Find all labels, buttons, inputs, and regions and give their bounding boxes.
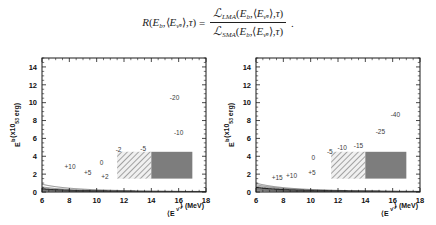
y-tick-label: 6	[247, 134, 251, 143]
equation-denominator: ℒSMA(Eb,⟨Eν̄e⟩,τ)	[210, 23, 286, 39]
y-tick-label: 6	[33, 134, 37, 143]
y-tick-label: 14	[29, 63, 38, 72]
contour-label: +5	[84, 169, 92, 176]
y-tick-label: 4	[33, 152, 38, 161]
shaded-region-group	[117, 152, 192, 179]
contour-label: +10	[286, 172, 297, 179]
numerator-paren-close: )	[280, 7, 284, 19]
x-tick-label: 14	[147, 196, 156, 205]
y-tick-label: 8	[33, 116, 37, 125]
equation-paren-close: )	[193, 16, 197, 28]
right-panel: +15+10+50-5-10-15-25-4068101214161802468…	[222, 50, 428, 222]
y-tick-label: 12	[243, 81, 251, 90]
y-tick-label: 10	[29, 98, 37, 107]
contour-label: 0	[312, 154, 316, 161]
x-tick-label: 6	[254, 196, 258, 205]
y-tick-label: 4	[247, 152, 252, 161]
contour-label: -10	[174, 129, 184, 136]
x-axis-title: ⟨Eν̄e⟩ (MeV)	[167, 202, 204, 218]
contour-label: +2	[101, 173, 109, 180]
x-tick-label: 10	[92, 196, 100, 205]
contour-label: -20	[170, 94, 180, 101]
x-tick-label: 14	[361, 196, 370, 205]
y-tick-label: 10	[243, 98, 251, 107]
equation-period: .	[291, 17, 294, 29]
denominator-paren-close: )	[279, 25, 283, 37]
equation-fraction: ℒLMA(Eb,⟨Eν̄e⟩,τ) ℒSMA(Eb,⟨Eν̄e⟩,τ)	[210, 6, 286, 39]
denominator-L-symbol: ℒ	[213, 24, 222, 38]
x-tick-label: 8	[67, 196, 71, 205]
y-tick-label: 8	[247, 116, 251, 125]
shaded-region-group	[331, 152, 406, 179]
y-tick-label: 14	[243, 63, 252, 72]
numerator-L-symbol: ℒ	[213, 6, 222, 20]
numerator-lma-sub: LMA	[222, 13, 236, 21]
contour-label: -15	[354, 142, 364, 149]
x-tick-label: 12	[120, 196, 128, 205]
equation-R-symbol: R	[142, 16, 149, 28]
contour-label: -40	[391, 111, 401, 118]
contour-label: -5	[140, 145, 146, 152]
y-tick-label: 2	[247, 170, 251, 179]
x-tick-label: 12	[334, 196, 342, 205]
left-panel: +10+5+20-2-5-10-206810121416180246810121…	[8, 50, 214, 222]
y-tick-label: 0	[247, 188, 251, 197]
x-axis-title: ⟨Eν̄e⟩ (MeV)	[381, 202, 418, 218]
solid-region	[365, 152, 406, 179]
contour-label: +15	[272, 174, 283, 181]
y-tick-label: 0	[33, 188, 37, 197]
contour-label: -25	[376, 128, 386, 135]
y-tick-label: 12	[29, 81, 37, 90]
hatched-region	[117, 152, 151, 179]
y-axis-title: Eb(x1053 erg)	[223, 103, 235, 147]
contour-label: -5	[327, 148, 333, 155]
equation-numerator: ℒLMA(Eb,⟨Eν̄e⟩,τ)	[210, 6, 286, 23]
hatched-region	[331, 152, 365, 179]
equation-equals: =	[199, 17, 205, 29]
y-axis-title: Eb(x1053 erg)	[9, 103, 21, 147]
contour-label: -2	[116, 146, 122, 153]
contour-label: 0	[100, 159, 104, 166]
denominator-sma-sub: SMA	[222, 31, 236, 39]
equation-display: R(Eb,⟨Eν̄e⟩,τ) = ℒLMA(Eb,⟨Eν̄e⟩,τ) ℒSMA(…	[0, 6, 436, 39]
x-tick-label: 6	[40, 196, 44, 205]
contour-label: +5	[308, 169, 316, 176]
contour-label: -10	[337, 144, 347, 151]
figure-root: R(Eb,⟨Eν̄e⟩,τ) = ℒLMA(Eb,⟨Eν̄e⟩,τ) ℒSMA(…	[0, 0, 436, 225]
equation-lhs: R(Eb,⟨Eν̄e⟩,τ)	[142, 16, 196, 30]
contour-label: +10	[65, 163, 76, 170]
solid-region	[151, 152, 192, 179]
x-tick-label: 10	[306, 196, 314, 205]
y-tick-label: 2	[33, 170, 37, 179]
x-tick-label: 8	[281, 196, 285, 205]
